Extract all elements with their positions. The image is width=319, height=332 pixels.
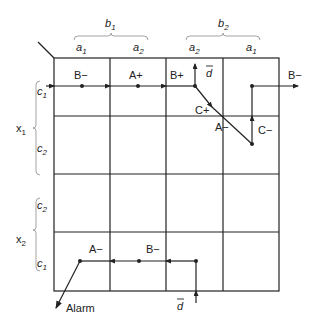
label-d-bar-bottom: d <box>177 300 184 312</box>
col-a1-b2: a1 <box>246 41 257 56</box>
label-b-minus-2: B− <box>146 243 160 255</box>
row-c1-x2: c1 <box>37 257 47 272</box>
label-c-plus: C+ <box>195 104 209 116</box>
row-group-x2: x2 <box>16 233 27 248</box>
map-grid <box>54 58 279 291</box>
label-b-minus-out: B− <box>288 69 302 81</box>
sequence-path-bottom <box>56 261 196 308</box>
label-d-bar-top: d <box>206 67 213 79</box>
col-group-b1: b1 <box>105 17 116 32</box>
row-c1: c1 <box>37 85 47 100</box>
row-group-x1: x1 <box>16 122 27 137</box>
label-a-minus-1: A− <box>215 121 229 133</box>
nodes-top <box>80 84 254 146</box>
label-a-minus-2: A− <box>89 243 103 255</box>
col-group-b2: b2 <box>218 17 229 32</box>
row-c2-x2: c2 <box>37 199 48 214</box>
col-a2-b2: a2 <box>189 41 200 56</box>
column-braces <box>74 33 260 40</box>
label-b-plus: B+ <box>170 69 184 81</box>
label-a-plus: A+ <box>129 69 143 81</box>
label-b-minus-1: B− <box>74 69 88 81</box>
row-braces <box>33 81 40 271</box>
col-a1: a1 <box>76 41 87 56</box>
corner-diagonal <box>38 42 54 58</box>
label-alarm: Alarm <box>66 302 95 314</box>
karnaugh-map-diagram: b1 b2 a1 a2 a2 a1 x1 x2 c1 c2 c2 c1 <box>0 0 319 332</box>
col-a2: a2 <box>133 41 144 56</box>
row-c2: c2 <box>37 142 48 157</box>
label-c-minus: C− <box>258 124 272 136</box>
